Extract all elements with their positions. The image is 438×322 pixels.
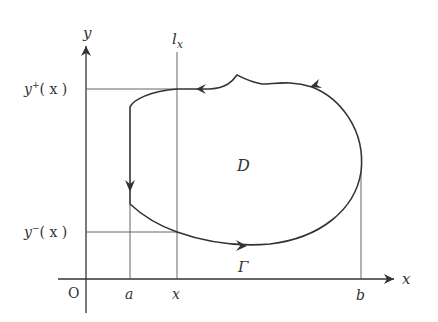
tick-label-a: a <box>125 286 133 302</box>
lower-function-label: y−( x ) <box>23 223 67 240</box>
diagram-canvas: y x O lx y+( x ) y−( x ) D Γ a x b <box>0 0 438 322</box>
x-axis-label: x <box>402 270 411 288</box>
arrow-top-right <box>310 79 322 88</box>
curve-label: Γ <box>237 258 249 276</box>
tick-label-b: b <box>356 287 365 303</box>
origin-label: O <box>68 285 79 301</box>
arrow-bottom-right <box>236 240 247 251</box>
upper-function-label: y+( x ) <box>23 80 67 97</box>
y-axis-label: y <box>82 24 92 42</box>
tick-label-x: x <box>172 286 180 302</box>
diagram-svg: y x O lx y+( x ) y−( x ) D Γ a x b <box>0 0 438 322</box>
line-l-x-label: lx <box>172 30 184 51</box>
region-label: D <box>236 156 250 175</box>
